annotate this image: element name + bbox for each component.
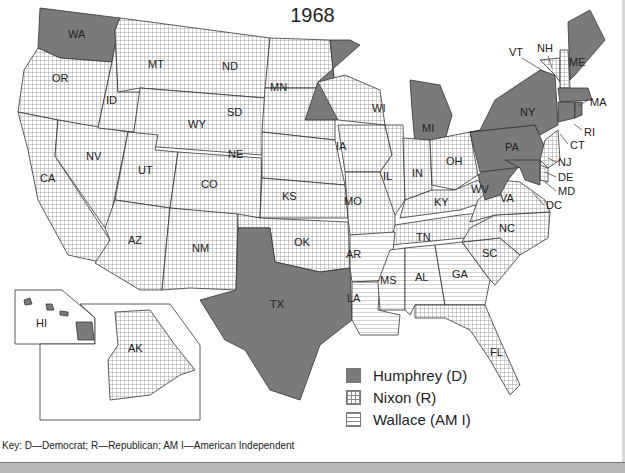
label-mt: MT xyxy=(148,58,164,70)
label-va: VA xyxy=(500,192,515,204)
legend-label-wallace: Wallace (AM I) xyxy=(373,411,471,428)
label-al: AL xyxy=(415,271,428,283)
label-id: ID xyxy=(106,94,117,106)
label-md: MD xyxy=(558,185,575,197)
label-or: OR xyxy=(52,72,69,84)
legend-item-nixon: Nixon (R) xyxy=(346,386,471,408)
label-nv: NV xyxy=(86,150,102,162)
label-sd: SD xyxy=(227,106,242,118)
state-ks xyxy=(260,178,348,218)
label-in: IN xyxy=(412,167,423,179)
label-tn: TN xyxy=(416,231,431,243)
label-tx: TX xyxy=(270,298,285,310)
label-mn: MN xyxy=(270,81,287,93)
humphrey-swatch-icon xyxy=(346,368,361,383)
state-de xyxy=(540,165,548,182)
nixon-swatch-icon xyxy=(346,390,361,405)
label-wa: WA xyxy=(68,28,86,40)
label-pa: PA xyxy=(505,141,520,153)
map-legend: Humphrey (D) Nixon (R) Wallace (AM I) xyxy=(346,364,471,430)
label-ct: CT xyxy=(570,139,585,151)
state-me xyxy=(568,10,605,80)
label-ar: AR xyxy=(346,248,361,260)
label-ne: NE xyxy=(228,148,243,160)
label-ks: KS xyxy=(282,190,297,202)
label-il: IL xyxy=(383,170,392,182)
label-nc: NC xyxy=(499,222,515,234)
label-wy: WY xyxy=(188,118,206,130)
label-ok: OK xyxy=(294,236,311,248)
state-mt xyxy=(115,18,270,98)
label-sc: SC xyxy=(482,247,497,259)
label-wv: WV xyxy=(471,183,489,195)
hi-island-3 xyxy=(60,311,68,316)
label-nh: NH xyxy=(537,42,553,54)
state-ne xyxy=(262,132,345,185)
label-nm: NM xyxy=(192,242,209,254)
label-mo: MO xyxy=(344,195,362,207)
state-hi xyxy=(76,322,94,340)
party-key: Key: D—Democrat; R—Republican; AM I—Amer… xyxy=(2,440,294,451)
legend-label-nixon: Nixon (R) xyxy=(373,389,436,406)
legend-label-humphrey: Humphrey (D) xyxy=(373,367,467,384)
label-ma: MA xyxy=(590,96,607,108)
state-ct xyxy=(558,102,575,122)
label-mi: MI xyxy=(422,122,434,134)
label-ny: NY xyxy=(520,106,536,118)
label-az: AZ xyxy=(128,234,142,246)
label-hi: HI xyxy=(36,317,47,329)
label-nj: NJ xyxy=(558,156,571,168)
label-ut: UT xyxy=(138,164,153,176)
label-la: LA xyxy=(347,292,361,304)
legend-item-humphrey: Humphrey (D) xyxy=(346,364,471,386)
label-me: ME xyxy=(569,56,586,68)
bottom-bar xyxy=(0,462,625,473)
state-mi xyxy=(410,80,452,145)
label-fl: FL xyxy=(490,346,503,358)
label-vt: VT xyxy=(509,46,523,58)
label-ri: RI xyxy=(584,126,595,138)
label-ga: GA xyxy=(452,268,469,280)
label-de: DE xyxy=(558,171,573,183)
label-ky: KY xyxy=(434,196,449,208)
label-dc: DC xyxy=(546,199,562,211)
label-ms: MS xyxy=(380,274,397,286)
label-wi: WI xyxy=(372,102,385,114)
label-ia: IA xyxy=(336,140,347,152)
wallace-swatch-icon xyxy=(346,412,361,427)
state-ma xyxy=(558,88,592,102)
legend-item-wallace: Wallace (AM I) xyxy=(346,408,471,430)
label-oh: OH xyxy=(446,155,463,167)
state-ny xyxy=(470,70,558,135)
label-ak: AK xyxy=(128,342,143,354)
label-ca: CA xyxy=(40,172,56,184)
state-nj xyxy=(540,130,560,168)
label-co: CO xyxy=(201,178,218,190)
us-map: WA OR CA NV ID MT WY UT CO AZ NM ND SD N… xyxy=(0,0,625,462)
label-nd: ND xyxy=(222,60,238,72)
